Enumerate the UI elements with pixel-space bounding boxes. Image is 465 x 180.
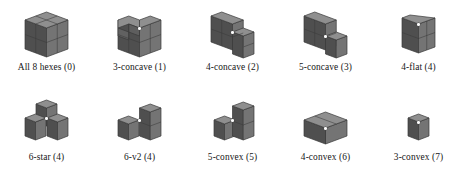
- figure-row-top: All 8 hexes (0): [0, 0, 465, 90]
- cube-render-6-star: [0, 92, 93, 150]
- figure-cell-3-convex: 3-convex (7): [372, 90, 465, 180]
- cube-render-4-concave: [186, 2, 279, 60]
- figure-cell-4-convex: 4-convex (6): [279, 90, 372, 180]
- vertex-marker: [417, 23, 420, 26]
- polycube-figure-grid: All 8 hexes (0): [0, 0, 465, 180]
- vertex-marker: [45, 117, 48, 120]
- cube-render-4-flat: [372, 2, 465, 60]
- figure-cell-6-star: 6-star (4): [0, 90, 93, 180]
- vertex-marker: [231, 31, 234, 34]
- vertex-marker: [324, 35, 327, 38]
- cube-render-all-8-hexes: [0, 2, 93, 60]
- figure-caption: 6-v2 (4): [124, 153, 155, 162]
- figure-cell-all-8-hexes: All 8 hexes (0): [0, 0, 93, 90]
- figure-cell-5-convex: 5-convex (5): [186, 90, 279, 180]
- all8-svg: [0, 2, 93, 60]
- figure-cell-4-concave: 4-concave (2): [186, 0, 279, 90]
- figure-cell-4-flat: 4-flat (4): [372, 0, 465, 90]
- concave3-svg: [93, 2, 186, 60]
- figure-caption: 4-convex (6): [301, 153, 350, 162]
- cube-render-4-convex: [279, 92, 372, 150]
- vertex-marker: [138, 119, 141, 122]
- figure-caption: 4-flat (4): [401, 63, 436, 72]
- cube-render-6-v2: [93, 92, 186, 150]
- figure-cell-3-concave: 3-concave (1): [93, 0, 186, 90]
- vertex-marker: [417, 121, 420, 124]
- figure-cell-6-v2: 6-v2 (4): [93, 90, 186, 180]
- vertex-marker: [324, 127, 327, 130]
- cube-render-5-concave: [279, 2, 372, 60]
- figure-caption: 4-concave (2): [206, 63, 259, 72]
- figure-caption: All 8 hexes (0): [18, 63, 75, 72]
- vertex-marker: [231, 119, 234, 122]
- vertex-marker: [138, 27, 141, 30]
- cube-render-3-concave: [93, 2, 186, 60]
- cube-render-3-convex: [372, 92, 465, 150]
- figure-caption: 3-convex (7): [394, 153, 443, 162]
- figure-caption: 6-star (4): [29, 153, 65, 162]
- flat4-svg: [372, 2, 465, 60]
- figure-row-bottom: 6-star (4): [0, 90, 465, 180]
- concave5-svg: [279, 2, 372, 60]
- cube-render-5-convex: [186, 92, 279, 150]
- figure-cell-5-concave: 5-concave (3): [279, 0, 372, 90]
- star6-svg: [0, 92, 93, 150]
- figure-caption: 3-concave (1): [113, 63, 166, 72]
- figure-caption: 5-concave (3): [299, 63, 352, 72]
- convex4-svg: [279, 92, 372, 150]
- figure-caption: 5-convex (5): [208, 153, 257, 162]
